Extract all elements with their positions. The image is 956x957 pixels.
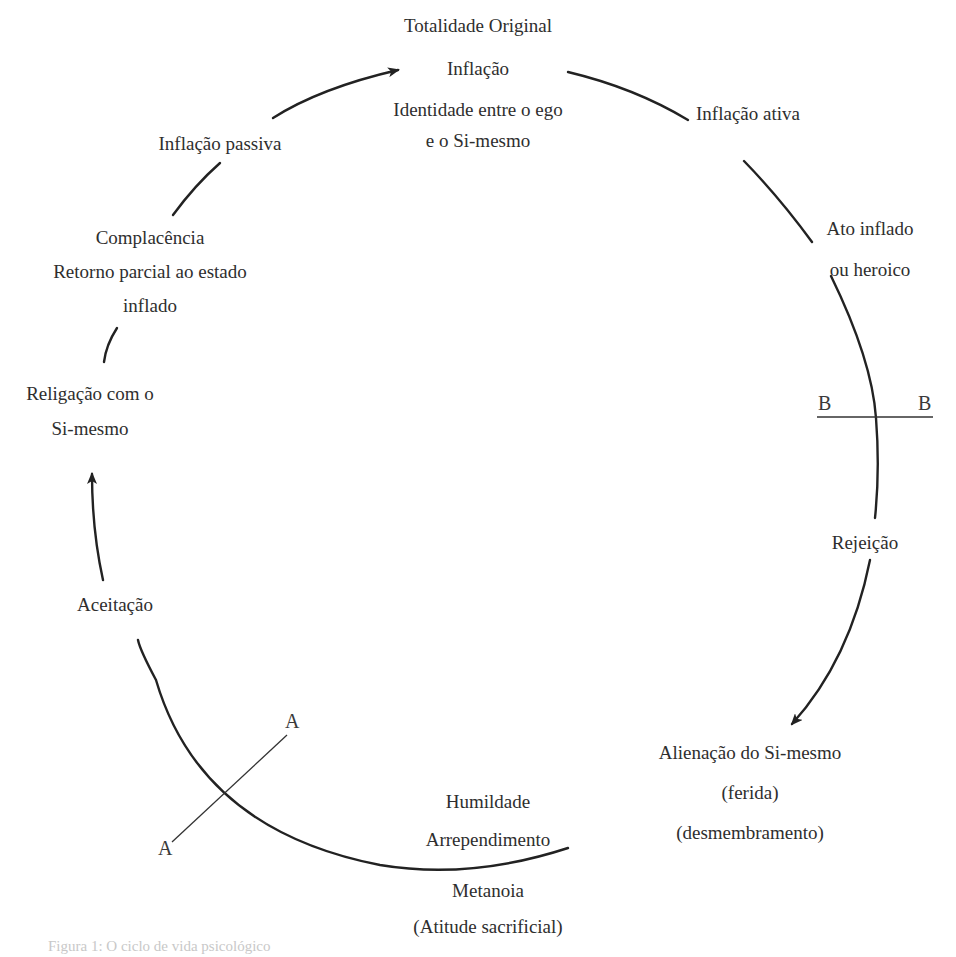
figure-caption: Figura 1: O ciclo de vida psicológico — [48, 938, 270, 955]
node-active-inflation: Inflação ativa — [678, 98, 818, 129]
node-totality-line-2: Inflação — [368, 53, 588, 84]
arc-complacency-to-passive — [173, 163, 220, 215]
node-humility-line-1: Humildade — [388, 786, 588, 817]
node-passive-inflation-text: Inflação passiva — [140, 128, 300, 159]
node-metanoia-line-1: Metanoia — [378, 875, 598, 906]
node-active-inflation-text: Inflação ativa — [678, 98, 818, 129]
node-metanoia: Metanoia (Atitude sacrificial) — [378, 875, 598, 942]
node-rejection: Rejeição — [810, 527, 920, 558]
arc-active-to-act — [744, 161, 812, 242]
arc-rejection-to-alienation — [792, 560, 870, 724]
node-complacency-line-2: Retorno parcial ao estado — [20, 256, 280, 287]
node-acceptance: Aceitação — [60, 589, 170, 620]
node-totality-line-1: Totalidade Original — [368, 10, 588, 41]
arc-acceptance-to-religation — [92, 474, 103, 580]
node-totality-line-4: e o Si-mesmo — [368, 125, 588, 156]
axis-label-b-left: B — [818, 392, 831, 415]
arc-act-to-rejection — [831, 276, 878, 518]
arc-religation-to-complacency — [104, 328, 117, 362]
node-alienation: Alienação do Si-mesmo (ferida) (desmembr… — [630, 737, 870, 848]
node-metanoia-line-2: (Atitude sacrificial) — [378, 911, 598, 942]
axis-label-b-right: B — [918, 392, 931, 415]
node-acceptance-text: Aceitação — [60, 589, 170, 620]
node-passive-inflation: Inflação passiva — [140, 128, 300, 159]
node-complacency-line-1: Complacência — [20, 222, 280, 253]
axis-label-a-top: A — [285, 710, 299, 733]
node-religation-line-1: Religação com o — [10, 378, 170, 409]
axis-label-a-bottom: A — [158, 837, 172, 860]
node-alienation-line-3: (desmembramento) — [630, 817, 870, 848]
node-inflated-act: Ato inflado ou heroico — [810, 213, 930, 285]
node-alienation-line-1: Alienação do Si-mesmo — [630, 737, 870, 768]
node-inflated-act-line-2: ou heroico — [810, 254, 930, 285]
node-rejection-text: Rejeição — [810, 527, 920, 558]
node-religation: Religação com o Si-mesmo — [10, 378, 170, 444]
node-humility-line-2: Arrependimento — [388, 824, 588, 855]
node-alienation-line-2: (ferida) — [630, 777, 870, 808]
node-complacency-line-3: inflado — [20, 290, 280, 321]
node-humility: Humildade Arrependimento — [388, 786, 588, 855]
node-totality-line-3: Identidade entre o ego — [368, 94, 588, 125]
node-religation-line-2: Si-mesmo — [10, 413, 170, 444]
node-inflated-act-line-1: Ato inflado — [810, 213, 930, 244]
node-totality: Totalidade Original Inflação Identidade … — [368, 10, 588, 156]
node-complacency: Complacência Retorno parcial ao estado i… — [20, 222, 280, 321]
